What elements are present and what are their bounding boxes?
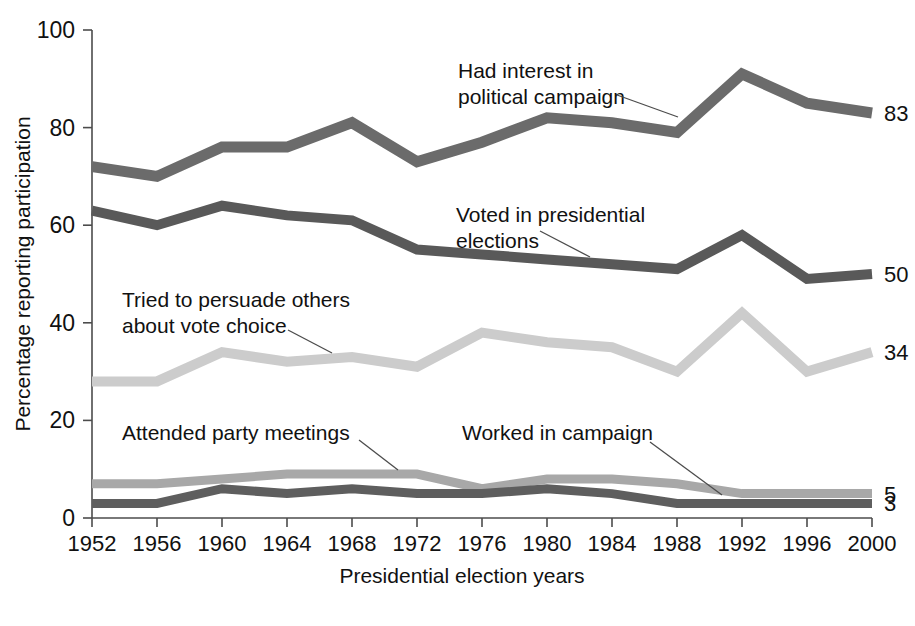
chart-canvas: 020406080100 195219561960196419681972197…: [0, 0, 915, 626]
annotation-voted: Voted in presidentialelections: [456, 203, 645, 252]
x-tick-label: 1988: [653, 531, 702, 556]
annotation-leader-persuade: [288, 330, 332, 353]
x-tick-label: 1964: [263, 531, 312, 556]
x-tick-label: 1980: [523, 531, 572, 556]
series-end-label-1: 50: [884, 262, 908, 287]
x-tick-label: 1956: [133, 531, 182, 556]
series-end-label-0: 83: [884, 101, 908, 126]
x-tick-label: 1996: [783, 531, 832, 556]
x-axis-title: Presidential election years: [339, 564, 584, 587]
chart-figure: 020406080100 195219561960196419681972197…: [0, 0, 915, 626]
series-end-label-2: 34: [884, 340, 908, 365]
x-tick-label: 1984: [588, 531, 637, 556]
y-tick-label: 100: [37, 17, 75, 43]
y-ticks-group: 020406080100: [37, 17, 92, 531]
y-tick-label: 20: [49, 407, 75, 433]
x-tick-label: 1972: [393, 531, 442, 556]
annotation-leader-attended: [359, 440, 398, 470]
annotation-persuade: Tried to persuade othersabout vote choic…: [122, 288, 350, 337]
y-tick-label: 40: [49, 310, 75, 336]
annotation-worked: Worked in campaign: [462, 421, 653, 444]
x-tick-label: 1960: [198, 531, 247, 556]
x-tick-label: 1976: [458, 531, 507, 556]
y-tick-label: 80: [49, 115, 75, 141]
series-end-label-4: 3: [884, 491, 896, 516]
y-axis-title: Percentage reporting participation: [11, 116, 34, 431]
x-ticks-group: 1952195619601964196819721976198019841988…: [68, 518, 897, 556]
end-labels-group: 83503453: [884, 101, 908, 516]
y-tick-label: 60: [49, 212, 75, 238]
annotation-leader-voted: [540, 231, 590, 257]
y-tick-label: 0: [62, 505, 75, 531]
x-tick-label: 1992: [718, 531, 767, 556]
annotation-leader-interest: [617, 95, 678, 117]
annotation-attended: Attended party meetings: [122, 421, 350, 444]
x-tick-label: 1952: [68, 531, 117, 556]
x-tick-label: 2000: [848, 531, 897, 556]
x-tick-label: 1968: [328, 531, 377, 556]
annotation-interest: Had interest inpolitical campaign: [458, 59, 625, 108]
